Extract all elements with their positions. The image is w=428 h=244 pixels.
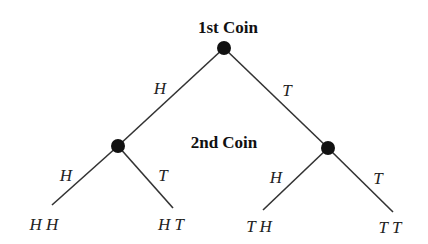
outcome-ht: H T: [157, 215, 186, 234]
outcome-th: T H: [246, 217, 273, 236]
branch-label-right-left: H: [269, 168, 284, 187]
branch-label-root-left: H: [153, 79, 168, 98]
branch-label-right-right: T: [373, 169, 384, 188]
node-tails: [321, 141, 335, 155]
edge-right-right: [328, 148, 393, 212]
second-coin-title: 2nd Coin: [191, 133, 258, 152]
branch-label-left-right: T: [158, 166, 169, 185]
tree-edges: [52, 48, 393, 212]
branch-label-left-left: H: [59, 166, 74, 185]
outcome-tt: T T: [379, 218, 403, 237]
first-coin-title: 1st Coin: [198, 18, 259, 37]
branch-label-root-right: T: [282, 81, 293, 100]
root-node: [217, 41, 231, 55]
outcome-hh: H H: [29, 215, 61, 234]
node-heads: [111, 139, 125, 153]
edge-root-left: [118, 48, 224, 146]
coin-tree-diagram: 1st Coin 2nd Coin H T H T H T H H H T T …: [0, 0, 428, 244]
